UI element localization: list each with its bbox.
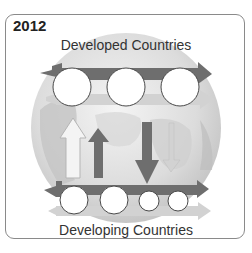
developing-country-circle-2 (100, 186, 128, 214)
developing-country-circle-4 (168, 191, 188, 211)
developed-countries-label: Developed Countries (0, 37, 252, 53)
developing-country-circle-1 (60, 186, 88, 214)
developing-country-circle-3 (139, 191, 159, 211)
year-label: 2012 (13, 17, 46, 34)
developed-country-circle-3 (161, 68, 199, 106)
developing-countries-label: Developing Countries (0, 222, 252, 238)
developed-country-circle-2 (107, 68, 145, 106)
developed-country-circle-1 (53, 68, 91, 106)
top-circles (53, 68, 199, 106)
